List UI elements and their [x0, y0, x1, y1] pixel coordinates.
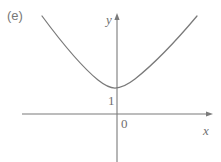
y-axis-arrowhead [114, 13, 119, 20]
x-axis-label: x [203, 124, 209, 137]
parabola-curve [42, 16, 197, 88]
y-axis-label: y [106, 13, 112, 26]
origin-label: 0 [121, 117, 128, 130]
y-intercept-label: 1 [108, 94, 115, 107]
part-label: (e) [7, 9, 23, 22]
x-axis-arrowhead [206, 111, 213, 116]
figure-container: (e) y x 0 1 [0, 0, 221, 162]
